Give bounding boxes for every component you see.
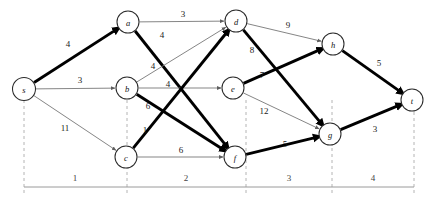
node-label-b: b bbox=[125, 84, 129, 94]
edge-weight-d-g: 8 bbox=[250, 45, 255, 55]
axis-segment-label-4: 4 bbox=[371, 173, 376, 183]
edge-weight-g-t: 3 bbox=[373, 124, 378, 134]
node-label-e: e bbox=[231, 84, 235, 94]
edge-weight-e-h: 7 bbox=[260, 70, 265, 80]
edge-a-d bbox=[140, 21, 225, 22]
node-h[interactable]: h bbox=[322, 33, 344, 55]
edge-h-t bbox=[342, 51, 402, 93]
edge-weight-d-h: 9 bbox=[286, 20, 291, 30]
edge-weight-e-g: 12 bbox=[260, 106, 269, 116]
graph-figure: 1234 sabcdefght 4311344461698712535 bbox=[0, 0, 432, 205]
node-label-c: c bbox=[124, 153, 128, 163]
axis-segment-label-3: 3 bbox=[287, 173, 292, 183]
edge-s-b bbox=[36, 88, 115, 89]
node-label-h: h bbox=[331, 40, 335, 50]
edge-weight-b-d: 4 bbox=[151, 61, 156, 71]
edge-weight-c-d: 1 bbox=[143, 125, 148, 135]
node-d[interactable]: d bbox=[225, 10, 247, 32]
node-c[interactable]: c bbox=[115, 146, 137, 168]
node-b[interactable]: b bbox=[116, 77, 138, 99]
node-s[interactable]: s bbox=[13, 78, 36, 101]
axis-segment-label-2: 2 bbox=[184, 173, 189, 183]
edge-weight-a-f: 4 bbox=[160, 30, 165, 40]
node-label-a: a bbox=[126, 18, 130, 28]
node-f[interactable]: f bbox=[224, 146, 246, 168]
node-g[interactable]: g bbox=[319, 123, 341, 145]
edge-g-t bbox=[341, 105, 401, 130]
edge-weight-f-g: 5 bbox=[283, 139, 288, 149]
edge-d-h bbox=[247, 24, 321, 42]
edge-s-c bbox=[34, 96, 116, 151]
axis-segment-label-1: 1 bbox=[73, 173, 78, 183]
edge-weight-h-t: 5 bbox=[377, 58, 382, 68]
edge-weight-s-a: 4 bbox=[66, 39, 71, 49]
edge-s-a bbox=[34, 29, 118, 83]
edge-layer bbox=[34, 21, 402, 157]
node-e[interactable]: e bbox=[222, 77, 244, 99]
graph-canvas: 1234 sabcdefght 4311344461698712535 bbox=[0, 0, 432, 205]
edge-weight-s-b: 3 bbox=[78, 75, 83, 85]
edge-weight-c-f: 6 bbox=[179, 145, 184, 155]
node-t[interactable]: t bbox=[401, 89, 423, 111]
edge-e-g bbox=[243, 93, 319, 129]
node-label-g: g bbox=[328, 130, 332, 140]
edge-weight-b-f: 6 bbox=[146, 101, 151, 111]
edge-b-d bbox=[137, 27, 226, 82]
edge-weight-b-e: 4 bbox=[166, 79, 171, 89]
node-a[interactable]: a bbox=[117, 11, 139, 33]
edge-weight-a-d: 3 bbox=[181, 9, 186, 19]
edge-weight-s-c: 11 bbox=[61, 123, 70, 133]
